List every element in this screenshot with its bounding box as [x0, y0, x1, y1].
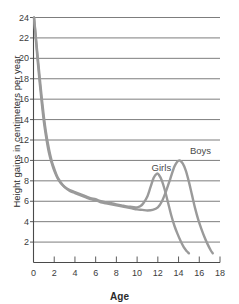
growth-rate-chart: 24681012141618202224 024681012141618 Gir…	[0, 0, 239, 304]
x-tick-label: 12	[153, 268, 163, 278]
x-tick-label: 10	[132, 268, 142, 278]
curve-boys	[34, 18, 213, 254]
x-tick-label: 16	[194, 268, 204, 278]
x-tick-label: 14	[174, 268, 184, 278]
x-axis-title: Age	[0, 291, 239, 302]
x-tick-label: 2	[52, 268, 57, 278]
series-label-boys: Boys	[190, 145, 211, 156]
series-label-girls: Girls	[152, 162, 172, 173]
x-tick-label: 18	[215, 268, 225, 278]
data-curves-group	[34, 18, 213, 254]
x-tick-label: 8	[114, 268, 119, 278]
x-tick-label: 0	[31, 268, 36, 278]
x-tick-label: 6	[93, 268, 98, 278]
y-tick-label: 24	[8, 13, 29, 23]
x-tick-marks-group	[54, 257, 220, 263]
y-tick-label: 2	[8, 237, 29, 247]
curve-girls	[34, 18, 189, 254]
gridlines-group	[30, 18, 220, 243]
y-axis-title: Height gains in centimeters per year	[11, 32, 22, 232]
x-tick-label: 4	[72, 268, 77, 278]
